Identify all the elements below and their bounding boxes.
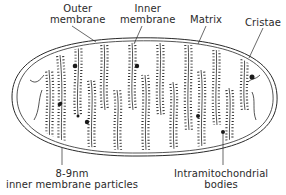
label-inner-membrane-line1: Inner — [120, 3, 176, 14]
intramitochondrial-bodies — [57, 64, 255, 134]
outer-membrane-outline — [12, 38, 277, 156]
label-inner-membrane-particles: 8-9nm inner membrane particles — [6, 168, 138, 190]
label-particles-line2: inner membrane particles — [6, 179, 138, 190]
label-inner-membrane: Inner membrane — [120, 3, 176, 25]
inner-membrane-particles — [46, 42, 248, 150]
label-outer-membrane-line2: membrane — [50, 14, 106, 25]
label-matrix: Matrix — [190, 14, 222, 25]
label-bodies-line1: Intramitochondrial — [174, 168, 268, 179]
mitochondrion-diagram — [0, 0, 286, 195]
label-cristae-line1: Cristae — [245, 17, 281, 28]
label-outer-membrane: Outer membrane — [50, 3, 106, 25]
label-inner-membrane-line2: membrane — [120, 14, 176, 25]
label-cristae: Cristae — [245, 17, 281, 28]
inner-membrane-outline — [17, 41, 273, 153]
label-bodies-line2: bodies — [174, 179, 268, 190]
label-outer-membrane-line1: Outer — [50, 3, 106, 14]
label-matrix-line1: Matrix — [190, 14, 222, 25]
label-particles-line1: 8-9nm — [6, 168, 138, 179]
label-intramitochondrial-bodies: Intramitochondrial bodies — [174, 168, 268, 190]
